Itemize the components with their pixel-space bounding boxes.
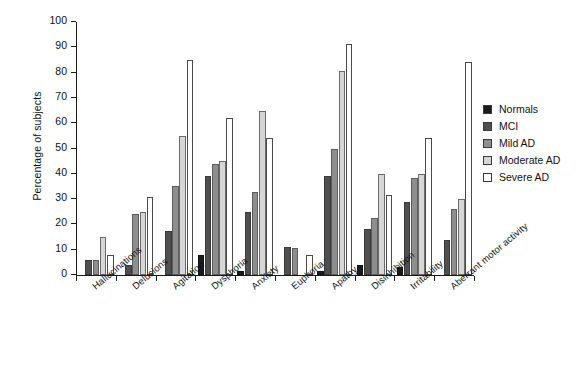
legend-swatch-icon <box>483 156 492 165</box>
x-tick <box>156 276 157 281</box>
y-tick: 70 <box>71 97 76 98</box>
y-tick: 10 <box>71 249 76 250</box>
legend-label: Mild AD <box>499 138 535 149</box>
y-tick-label: 60 <box>55 115 67 127</box>
bar-group <box>198 22 233 275</box>
bar <box>458 199 465 275</box>
bar <box>371 218 378 275</box>
legend-item: Normals <box>483 101 560 118</box>
x-tick <box>275 276 276 281</box>
y-tick-label: 80 <box>55 65 67 77</box>
x-tick <box>394 276 395 281</box>
x-tick <box>235 276 236 281</box>
chart-legend: NormalsMCIMild ADModerate ADSevere AD <box>483 101 560 186</box>
bar <box>140 212 147 275</box>
x-tick <box>474 276 475 281</box>
legend-swatch-icon <box>483 105 492 114</box>
legend-label: Moderate AD <box>499 155 560 166</box>
bar <box>226 118 233 275</box>
legend-item: Mild AD <box>483 135 560 152</box>
bar <box>364 229 371 275</box>
bar-group <box>78 22 113 275</box>
bar <box>266 138 273 275</box>
y-tick-label: 0 <box>61 267 67 279</box>
y-tick: 100 <box>71 21 76 22</box>
y-tick: 40 <box>71 173 76 174</box>
bar <box>339 71 346 275</box>
bar-group <box>357 22 392 275</box>
bar <box>93 260 100 275</box>
y-tick: 90 <box>71 46 76 47</box>
x-tick <box>355 276 356 281</box>
bar <box>451 209 458 275</box>
legend-label: Severe AD <box>499 172 549 183</box>
y-tick: 80 <box>71 72 76 73</box>
bar-group <box>158 22 193 275</box>
bar-group <box>237 22 272 275</box>
x-tick <box>315 276 316 281</box>
y-axis-line <box>76 22 77 276</box>
legend-swatch-icon <box>483 122 492 131</box>
bar <box>378 174 385 275</box>
bar <box>85 260 92 275</box>
bar <box>187 60 194 275</box>
bar <box>219 161 226 275</box>
bar <box>212 164 219 275</box>
y-tick: 50 <box>71 148 76 149</box>
bar-chart-figure: Percentage of subjects 01020304050607080… <box>0 0 584 371</box>
y-tick-label: 70 <box>55 90 67 102</box>
y-tick: 60 <box>71 122 76 123</box>
bar <box>292 248 299 275</box>
y-tick-label: 100 <box>49 14 67 26</box>
y-tick-label: 10 <box>55 242 67 254</box>
x-tick <box>116 276 117 281</box>
legend-item: MCI <box>483 118 560 135</box>
y-tick-label: 50 <box>55 141 67 153</box>
bar-group <box>436 22 471 275</box>
bar-group <box>397 22 432 275</box>
legend-label: MCI <box>499 121 518 132</box>
legend-item: Moderate AD <box>483 152 560 169</box>
y-tick-label: 30 <box>55 191 67 203</box>
x-tick <box>76 276 77 281</box>
legend-swatch-icon <box>483 139 492 148</box>
bar <box>205 176 212 275</box>
x-tick <box>434 276 435 281</box>
legend-swatch-icon <box>483 173 492 182</box>
bar <box>172 186 179 275</box>
bar <box>252 192 259 275</box>
bar <box>324 176 331 275</box>
bar <box>425 138 432 275</box>
legend-item: Severe AD <box>483 169 560 186</box>
y-axis-title: Percentage of subjects <box>31 46 43 246</box>
y-tick: 30 <box>71 198 76 199</box>
y-tick: 0 <box>71 274 76 275</box>
bar-group <box>118 22 153 275</box>
y-tick-label: 40 <box>55 166 67 178</box>
plot-area: 0102030405060708090100 <box>76 22 474 276</box>
y-tick-label: 20 <box>55 216 67 228</box>
y-tick-label: 90 <box>55 39 67 51</box>
bar <box>284 247 291 275</box>
bar <box>179 136 186 275</box>
bar-group <box>317 22 352 275</box>
bar-group <box>277 22 312 275</box>
x-tick <box>195 276 196 281</box>
bar <box>346 44 353 275</box>
bar <box>465 62 472 275</box>
legend-label: Normals <box>499 104 538 115</box>
y-tick: 20 <box>71 223 76 224</box>
bar <box>331 149 338 276</box>
bar <box>444 240 451 275</box>
bar <box>165 231 172 275</box>
bar <box>259 111 266 275</box>
bar <box>418 174 425 275</box>
